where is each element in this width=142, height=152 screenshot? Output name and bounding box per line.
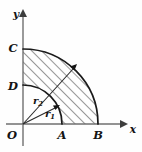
shaded-annulus-region [0, 0, 142, 152]
x-axis-label: x [129, 123, 137, 135]
y-axis-label: y [12, 8, 20, 20]
point-label-A: A [57, 128, 67, 142]
geometry-figure: O A B C D x y r2 r1 [0, 0, 142, 152]
radius-label-r1-subscript: 1 [50, 112, 55, 120]
point-label-D: D [7, 79, 18, 93]
point-label-C: C [8, 41, 18, 55]
figure-canvas: O A B C D x y r2 r1 [0, 0, 142, 152]
point-label-O: O [7, 128, 17, 142]
point-label-B: B [92, 128, 103, 142]
radius-label-r2-subscript: 2 [37, 99, 43, 107]
